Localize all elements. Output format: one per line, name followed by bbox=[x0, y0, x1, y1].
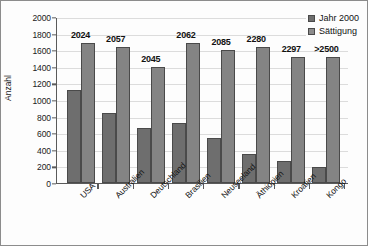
legend-swatch-icon bbox=[308, 15, 315, 22]
y-axis-tick-label: 800 bbox=[37, 113, 51, 123]
y-axis-tick-label: 1200 bbox=[32, 79, 51, 89]
bar bbox=[186, 43, 200, 183]
x-axis-label-cell: Äthiopien bbox=[238, 189, 273, 245]
y-axis-title: Anzahl bbox=[3, 75, 13, 101]
bar-group: 2057 bbox=[98, 18, 133, 183]
x-axis-label-cell: Deutschland bbox=[133, 189, 168, 245]
bar bbox=[102, 113, 116, 183]
bar-value-label: 2024 bbox=[71, 30, 90, 40]
x-axis-label-cell: Kroatien bbox=[274, 189, 309, 245]
x-axis-label-cell: Kongo bbox=[309, 189, 344, 245]
bar-value-label: 2062 bbox=[176, 30, 195, 40]
bar bbox=[81, 43, 95, 183]
bar bbox=[116, 47, 130, 183]
bar-value-label: >2500 bbox=[314, 44, 338, 54]
bar-group: 2280 bbox=[239, 18, 274, 183]
bar bbox=[67, 90, 81, 183]
x-axis-tick-mark bbox=[274, 184, 275, 189]
legend-label: Jahr 2000 bbox=[319, 13, 359, 23]
x-axis-label-cell: Australien bbox=[97, 189, 132, 245]
bar-value-label: 2297 bbox=[282, 44, 301, 54]
legend-label: Sättigung bbox=[319, 26, 357, 36]
bar-value-label: 2057 bbox=[106, 34, 125, 44]
x-axis-tick-mark bbox=[168, 184, 169, 189]
x-axis-tick-mark bbox=[97, 184, 98, 189]
x-axis-tick-mark bbox=[133, 184, 134, 189]
y-axis-tick-label: 2000 bbox=[32, 13, 51, 23]
x-axis-tick-mark bbox=[238, 184, 239, 189]
x-axis-tick-mark bbox=[344, 184, 345, 189]
x-axis-label-cell: Brasilien bbox=[168, 189, 203, 245]
legend-item-jahr-2000: Jahr 2000 bbox=[308, 13, 359, 23]
chart-container: 2000180016001400120010008006004002000 An… bbox=[0, 0, 368, 246]
bar-group: 2085 bbox=[204, 18, 239, 183]
bar-value-label: 2280 bbox=[247, 34, 266, 44]
plot-area: 2024205720452062208522802297>2500 bbox=[56, 18, 348, 184]
x-axis-tick-mark bbox=[203, 184, 204, 189]
bar bbox=[256, 47, 270, 183]
y-axis-tick-label: 400 bbox=[37, 146, 51, 156]
y-axis-tick-label: 0 bbox=[46, 179, 51, 189]
y-axis-tick-label: 1800 bbox=[32, 30, 51, 40]
bar bbox=[326, 57, 340, 183]
y-axis-tick-label: 1400 bbox=[32, 63, 51, 73]
bar bbox=[221, 50, 235, 183]
y-axis-tick-label: 1600 bbox=[32, 46, 51, 56]
bar-group: 2062 bbox=[168, 18, 203, 183]
x-axis-label-cell: Neuseeland bbox=[203, 189, 238, 245]
y-axis-tick-label: 200 bbox=[37, 162, 51, 172]
y-axis-tick-label: 1000 bbox=[32, 96, 51, 106]
y-axis: 2000180016001400120010008006004002000 bbox=[1, 1, 51, 246]
legend-item-saettigung: Sättigung bbox=[308, 26, 359, 36]
x-axis-tick-mark bbox=[309, 184, 310, 189]
bar-group: 2024 bbox=[63, 18, 98, 183]
bar-group: 2297 bbox=[274, 18, 309, 183]
bar bbox=[291, 57, 305, 183]
bar-value-label: 2045 bbox=[141, 54, 160, 64]
bar-value-label: 2085 bbox=[211, 37, 230, 47]
x-axis-labels: USAAustralienDeutschlandBrasilienNeuseel… bbox=[56, 189, 348, 245]
x-axis-label-cell: USA bbox=[62, 189, 97, 245]
bar-group: >2500 bbox=[309, 18, 344, 183]
y-axis-tick-label: 600 bbox=[37, 129, 51, 139]
chart-legend: Jahr 2000 Sättigung bbox=[306, 12, 361, 37]
bar bbox=[151, 67, 165, 183]
bar-group: 2045 bbox=[133, 18, 168, 183]
bar-series-group: 2024205720452062208522802297>2500 bbox=[57, 18, 348, 183]
legend-swatch-icon bbox=[308, 28, 315, 35]
